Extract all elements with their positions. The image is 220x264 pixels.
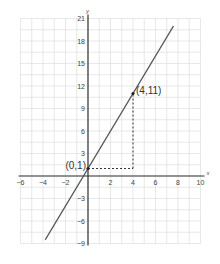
data-point-marker	[86, 167, 89, 170]
x-tick-label: 4	[131, 179, 135, 186]
line-chart: xy −6−4−224681021181512963−3−6−9 (0,1)(4…	[0, 0, 220, 264]
x-tick-label: −4	[39, 179, 47, 186]
point-label: (4,11)	[136, 85, 161, 96]
x-tick-label: 6	[154, 179, 158, 186]
y-tick-label: −3	[77, 195, 85, 202]
y-tick-label: 15	[77, 60, 85, 67]
y-tick-label: 9	[81, 105, 85, 112]
y-tick-label: −9	[77, 240, 85, 247]
y-axis-label: y	[85, 8, 90, 14]
x-tick-label: 2	[109, 179, 113, 186]
y-tick-label: 6	[81, 128, 85, 135]
series-line	[45, 26, 173, 240]
y-tick-label: 21	[77, 15, 85, 22]
x-tick-label: 8	[176, 179, 180, 186]
y-tick-label: −6	[77, 218, 85, 225]
x-tick-label: −6	[17, 179, 25, 186]
data-point-marker	[131, 92, 134, 95]
labeled-points: (0,1)(4,11)	[65, 85, 161, 171]
x-tick-label: −2	[62, 179, 70, 186]
x-tick-label: 10	[197, 179, 205, 186]
point-label: (0,1)	[65, 160, 86, 171]
x-axis-label: x	[206, 170, 211, 176]
y-tick-label: 12	[77, 83, 85, 90]
y-tick-label: 18	[77, 38, 85, 45]
data-line	[45, 26, 173, 240]
y-tick-label: 3	[81, 150, 85, 157]
